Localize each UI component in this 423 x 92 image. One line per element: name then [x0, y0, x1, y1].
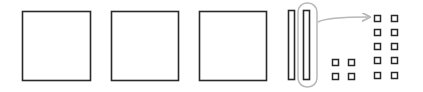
small-square: [333, 74, 339, 80]
large-square-2: [112, 12, 179, 81]
small-square: [392, 58, 398, 64]
small-squares-grid-2x5: [375, 16, 398, 79]
large-squares-group: [23, 12, 267, 81]
large-square-3: [200, 12, 267, 81]
small-square: [349, 60, 355, 66]
small-squares-grid-2x2: [333, 60, 355, 80]
small-square: [392, 16, 398, 22]
small-square: [375, 16, 381, 22]
small-square: [375, 73, 381, 79]
arrow-connector: [318, 17, 369, 22]
small-square: [333, 60, 339, 66]
thin-rectangle-2: [304, 11, 310, 80]
small-square: [392, 30, 398, 36]
small-square: [392, 73, 398, 79]
thin-rectangle-1: [289, 11, 295, 80]
highlight-oval: [298, 3, 317, 87]
small-square: [349, 74, 355, 80]
small-square: [375, 58, 381, 64]
thin-rectangles-group: [289, 11, 310, 80]
small-square: [375, 44, 381, 50]
small-square: [375, 30, 381, 36]
diagram-canvas: [0, 0, 423, 92]
small-square: [392, 44, 398, 50]
large-square-1: [23, 12, 91, 81]
